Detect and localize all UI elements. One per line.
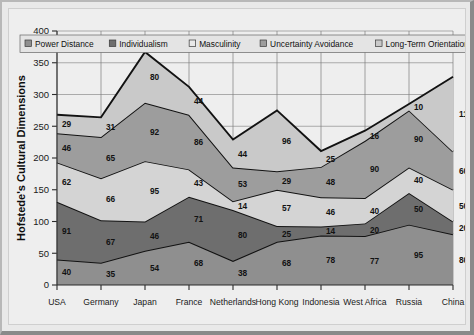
plot-frame: 050100150200250300350400USAGermanyJapanF… — [8, 8, 466, 325]
value-label: 10 — [414, 102, 424, 112]
value-label: 80 — [238, 230, 248, 240]
x-category-label-netherlands: Netherlands — [210, 297, 256, 307]
value-label: 29 — [62, 119, 72, 129]
value-label: 46 — [326, 207, 336, 217]
value-label: 86 — [194, 137, 204, 147]
value-label: 77 — [370, 256, 380, 266]
value-label: 62 — [62, 177, 72, 187]
stacked-area-chart: 050100150200250300350400USAGermanyJapanF… — [9, 9, 465, 324]
value-label: 78 — [326, 255, 336, 265]
value-label: 50 — [459, 201, 465, 211]
value-label: 65 — [106, 153, 116, 163]
value-label: 68 — [282, 258, 292, 268]
x-category-label-germany: Germany — [83, 297, 119, 307]
value-label: 80 — [150, 72, 160, 82]
y-tick-label: 250 — [33, 121, 49, 132]
legend-swatch-uncertainty-avoidance — [260, 40, 267, 47]
x-category-label-usa: USA — [48, 297, 66, 307]
value-label: 31 — [106, 122, 116, 132]
value-label: 118 — [459, 109, 465, 119]
x-category-label-russia: Russia — [396, 297, 422, 307]
y-tick-label: 50 — [38, 248, 49, 259]
legend-swatch-individualism — [109, 40, 116, 47]
value-label: 95 — [150, 186, 160, 196]
value-label: 96 — [282, 136, 292, 146]
value-label: 14 — [238, 201, 248, 211]
value-label: 40 — [414, 175, 424, 185]
value-label: 40 — [370, 206, 380, 216]
legend-label-individualism: Individualism — [119, 39, 167, 49]
value-label: 67 — [106, 237, 116, 247]
value-label: 57 — [282, 203, 292, 213]
value-label: 44 — [238, 149, 248, 159]
x-category-label-france: France — [176, 297, 203, 307]
value-label: 20 — [459, 223, 465, 233]
legend-swatch-long-term-orientation — [376, 40, 383, 47]
y-tick-label: 200 — [33, 152, 49, 163]
legend-label-masculinity: Masculinity — [199, 39, 241, 49]
legend-label-long-term-orientation: Long-Term Orientation — [386, 39, 465, 49]
legend-label-uncertainty-avoidance: Uncertainty Avoidance — [270, 39, 354, 49]
y-tick-label: 0 — [44, 279, 49, 290]
y-tick-label: 300 — [33, 89, 49, 100]
chart-figure: 050100150200250300350400USAGermanyJapanF… — [0, 0, 474, 335]
x-category-label-japan: Japan — [133, 297, 157, 307]
value-label: 68 — [194, 258, 204, 268]
value-label: 29 — [282, 176, 292, 186]
value-label: 46 — [62, 143, 72, 153]
legend-swatch-power-distance — [25, 40, 32, 47]
value-label: 50 — [414, 204, 424, 214]
value-label: 54 — [150, 263, 160, 273]
y-axis-title: Hofstede's Cultural Dimensions — [15, 75, 27, 241]
value-label: 80 — [459, 255, 465, 265]
value-label: 53 — [238, 179, 248, 189]
value-label: 90 — [370, 164, 380, 174]
y-tick-label: 150 — [33, 184, 49, 195]
y-tick-label: 350 — [33, 57, 49, 68]
value-label: 60 — [459, 166, 465, 176]
value-label: 20 — [370, 225, 380, 235]
value-label: 91 — [62, 226, 72, 236]
value-label: 25 — [326, 154, 336, 164]
x-category-label-indonesia: Indonesia — [302, 297, 339, 307]
value-label: 14 — [326, 226, 336, 236]
legend-swatch-masculinity — [189, 40, 196, 47]
value-label: 95 — [414, 250, 424, 260]
value-label: 43 — [194, 178, 204, 188]
value-label: 92 — [150, 127, 160, 137]
value-label: 35 — [106, 269, 116, 279]
value-label: 40 — [62, 267, 72, 277]
value-label: 90 — [414, 134, 424, 144]
value-label: 25 — [282, 229, 292, 239]
y-tick-label: 100 — [33, 216, 49, 227]
value-label: 38 — [238, 268, 248, 278]
value-label: 48 — [326, 177, 336, 187]
value-label: 46 — [150, 231, 160, 241]
value-label: 16 — [370, 131, 380, 141]
value-label: 66 — [106, 194, 116, 204]
x-category-label-hong-kong: Hong Kong — [255, 297, 298, 307]
value-label: 44 — [194, 96, 204, 106]
x-category-label-west-africa: West Africa — [343, 297, 387, 307]
legend-label-power-distance: Power Distance — [35, 39, 94, 49]
value-label: 71 — [194, 214, 204, 224]
x-category-label-china: China — [442, 297, 465, 307]
